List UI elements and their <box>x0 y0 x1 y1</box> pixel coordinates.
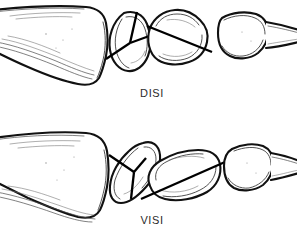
panel-label-disi: DISI <box>140 87 164 99</box>
radius-speck-disi-1 <box>45 33 46 34</box>
radius-speck-disi-2 <box>62 39 63 40</box>
capitate-speck-disi-2 <box>251 41 252 42</box>
capitate-speck-visi-2 <box>256 173 257 174</box>
anatomical-figure: DISI <box>0 0 297 238</box>
radius-speck-visi-3 <box>73 156 74 157</box>
radius-speck-visi-4 <box>57 180 58 181</box>
radius-speck-disi-4 <box>56 48 57 49</box>
radius-speck-visi-2 <box>63 169 64 170</box>
capitate-speck-disi-1 <box>241 31 242 32</box>
radius-speck-visi-1 <box>45 162 46 163</box>
capitate-speck-visi-1 <box>246 162 247 163</box>
wrist-instability-diagram: DISI <box>0 0 297 238</box>
panel-label-visi: VISI <box>140 214 163 226</box>
radius-speck-disi-3 <box>71 28 72 29</box>
